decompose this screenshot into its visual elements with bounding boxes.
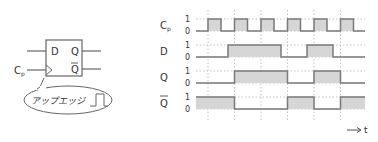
svg-text:0: 0 [185, 79, 190, 88]
svg-text:p: p [167, 25, 171, 33]
svg-text:1: 1 [185, 41, 190, 50]
signal-label: Q [160, 98, 168, 109]
svg-text:1: 1 [185, 93, 190, 102]
clock-sub: p [21, 70, 25, 78]
svg-text:1: 1 [185, 15, 190, 24]
waveform-Cp [196, 19, 365, 31]
output-qbar-label: Q [71, 64, 79, 75]
input-d-label: D [51, 46, 59, 57]
svg-text:0: 0 [185, 27, 190, 36]
time-label: t [364, 125, 368, 135]
signal-label: C [160, 20, 167, 31]
svg-text:1: 1 [185, 67, 190, 76]
signal-label: Q [160, 72, 168, 83]
callout-text: アップエッジ [31, 96, 86, 106]
waveform-D [196, 45, 365, 57]
output-q-label: Q [71, 46, 79, 57]
upedge-callout: アップエッジ [24, 78, 112, 114]
svg-text:0: 0 [185, 105, 190, 114]
svg-text:0: 0 [185, 53, 190, 62]
diagram-canvas: D Q Q C p アップエッジ Cp10D10Q10Q10 t [0, 0, 378, 142]
flipflop-symbol: D Q Q C p [14, 40, 101, 78]
clock-label: C [14, 65, 21, 76]
timing-diagram: Cp10D10Q10Q10 [160, 10, 365, 120]
time-axis: t [347, 125, 368, 135]
signal-label: D [160, 46, 168, 57]
